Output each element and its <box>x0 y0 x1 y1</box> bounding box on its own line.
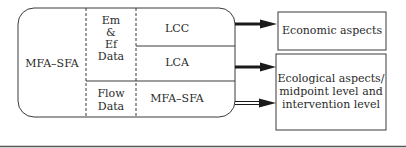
arrow-mfa-sfa-to-ecological <box>235 99 276 108</box>
arrow-lcc-to-economic <box>235 20 277 29</box>
lcc-label: LCC <box>136 22 218 35</box>
mfa-sfa-method-label: MFA–SFA <box>136 92 218 105</box>
em-ef-line: Data <box>86 51 136 63</box>
em-ef-data-label: Em & Ef Data <box>86 15 136 63</box>
ecological-line: midpoint level and <box>276 85 386 98</box>
ecological-line: intervention level <box>276 98 386 111</box>
flow-data-line: Data <box>86 100 136 113</box>
flow-data-label: Flow Data <box>86 87 136 113</box>
ecological-line: Ecological aspects/ <box>276 72 386 85</box>
economic-aspects-label: Economic aspects <box>278 24 386 37</box>
source-label: MFA–SFA <box>18 57 86 70</box>
flow-data-line: Flow <box>86 87 136 100</box>
ecological-aspects-label: Ecological aspects/ midpoint level and i… <box>276 72 386 111</box>
lca-label: LCA <box>136 56 218 69</box>
arrow-lca-to-ecological <box>235 63 276 72</box>
